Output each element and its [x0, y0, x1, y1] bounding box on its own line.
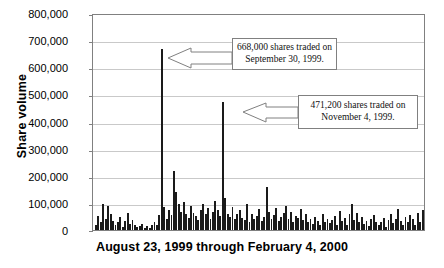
y-axis-tick-label: 300,000: [4, 144, 68, 156]
y-axis-tick-label: 100,000: [4, 198, 68, 210]
y-axis-tick-labels: 800,000700,000600,000500,000400,000300,0…: [4, 0, 68, 268]
y-axis-tick-label: 600,000: [4, 62, 68, 74]
share-volume-chart: Share volume 800,000700,000600,000500,00…: [0, 0, 444, 268]
y-axis-tick-label: 700,000: [4, 35, 68, 47]
annotation-line-1: 668,000 shares traded on: [237, 42, 332, 54]
y-axis-tick-label: 200,000: [4, 171, 68, 183]
annotation-line-2: September 30, 1999.: [237, 54, 332, 66]
x-axis-title: August 23, 1999 through February 4, 2000: [0, 240, 444, 254]
y-axis-tick-label: 500,000: [4, 89, 68, 101]
y-axis-tick-label: 0: [4, 225, 68, 237]
tick-mark: [89, 231, 93, 232]
annotation-callout-sept-30: 668,000 shares traded on September 30, 1…: [232, 38, 337, 70]
y-axis-tick-label: 800,000: [4, 8, 68, 20]
annotation-callout-nov-4: 471,200 shares traded on November 4, 199…: [298, 95, 418, 129]
y-axis-tick-label: 400,000: [4, 117, 68, 129]
annotation-line-2: November 4, 1999.: [303, 112, 413, 124]
bar: [422, 210, 424, 230]
bar: [161, 49, 163, 230]
annotation-line-1: 471,200 shares traded on: [303, 100, 413, 112]
